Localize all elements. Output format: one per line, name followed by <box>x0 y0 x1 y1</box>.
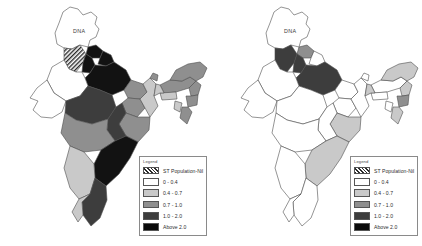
region-manipur <box>186 95 198 107</box>
dna-label-right: DNA <box>284 28 296 34</box>
legend-left: Legend ST Population-Nil 0 - 0.4 0.4 - 0… <box>139 156 207 236</box>
legend-row: 1.0 - 2.0 <box>143 210 203 221</box>
region-karnataka <box>275 146 306 199</box>
legend-label: 0 - 0.4 <box>163 179 178 185</box>
legend-row: ST Population-Nil <box>354 165 414 176</box>
legend-label: 0.7 - 1.0 <box>163 202 182 208</box>
legend-swatch-st-population-nil <box>354 167 370 175</box>
legend-swatch-0-0-4 <box>354 178 370 186</box>
legend-title: Legend <box>143 159 203 164</box>
legend-title: Legend <box>354 159 414 164</box>
legend-swatch-above-2-0 <box>143 223 159 231</box>
legend-swatch-0-4-0-7 <box>354 189 370 197</box>
legend-row: 1.0 - 2.0 <box>354 210 414 221</box>
region-karnataka <box>64 146 95 199</box>
legend-rows: ST Population-Nil 0 - 0.4 0.4 - 0.7 0.7 … <box>143 165 203 233</box>
region-tripura <box>385 101 393 112</box>
legend-swatch-0-7-1-0 <box>354 201 370 209</box>
legend-swatch-0-4-0-7 <box>143 189 159 197</box>
legend-row: 0.4 - 0.7 <box>354 188 414 199</box>
legend-swatch-1-0-2-0 <box>143 212 159 220</box>
legend-rows: ST Population-Nil 0 - 0.4 0.4 - 0.7 0.7 … <box>354 165 414 233</box>
legend-row: 0 - 0.4 <box>354 176 414 187</box>
legend-row: 0.4 - 0.7 <box>143 188 203 199</box>
legend-row: Above 2.0 <box>143 221 203 232</box>
legend-label: ST Population-Nil <box>163 168 203 174</box>
map-figure: DNA Legend ST Population-Nil 0 - 0.4 0.4… <box>0 0 422 246</box>
map-panel-right: DNA Legend ST Population-Nil 0 - 0.4 0.4… <box>211 0 422 246</box>
legend-label: Above 2.0 <box>374 224 397 230</box>
region-mizoram <box>180 107 192 124</box>
map-panel-left: DNA Legend ST Population-Nil 0 - 0.4 0.4… <box>0 0 211 246</box>
legend-label: ST Population-Nil <box>374 168 414 174</box>
legend-row: Above 2.0 <box>354 221 414 232</box>
legend-swatch-st-population-nil <box>143 167 159 175</box>
legend-swatch-0-0-4 <box>143 178 159 186</box>
legend-label: 0 - 0.4 <box>374 179 389 185</box>
legend-label: 0.4 - 0.7 <box>163 190 182 196</box>
legend-label: 0.4 - 0.7 <box>374 190 393 196</box>
legend-label: Above 2.0 <box>163 224 186 230</box>
legend-swatch-1-0-2-0 <box>354 212 370 220</box>
legend-right: Legend ST Population-Nil 0 - 0.4 0.4 - 0… <box>350 156 418 236</box>
dna-label-left: DNA <box>73 28 85 34</box>
legend-row: ST Population-Nil <box>143 165 203 176</box>
region-tripura <box>174 101 182 112</box>
region-mizoram <box>391 107 403 124</box>
legend-swatch-above-2-0 <box>354 223 370 231</box>
legend-row: 0.7 - 1.0 <box>143 199 203 210</box>
legend-label: 0.7 - 1.0 <box>374 202 393 208</box>
legend-row: 0 - 0.4 <box>143 176 203 187</box>
legend-row: 0.7 - 1.0 <box>354 199 414 210</box>
region-manipur <box>397 95 409 107</box>
legend-label: 1.0 - 2.0 <box>163 213 182 219</box>
legend-swatch-0-7-1-0 <box>143 201 159 209</box>
legend-label: 1.0 - 2.0 <box>374 213 393 219</box>
